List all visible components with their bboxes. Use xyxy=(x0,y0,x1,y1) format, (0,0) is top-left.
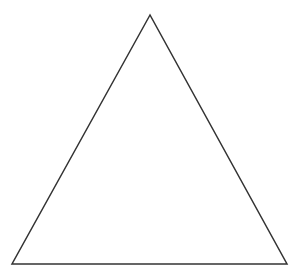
triangle-diagram xyxy=(0,0,300,280)
diagram-canvas xyxy=(0,0,300,280)
triangle-shape xyxy=(12,15,287,264)
